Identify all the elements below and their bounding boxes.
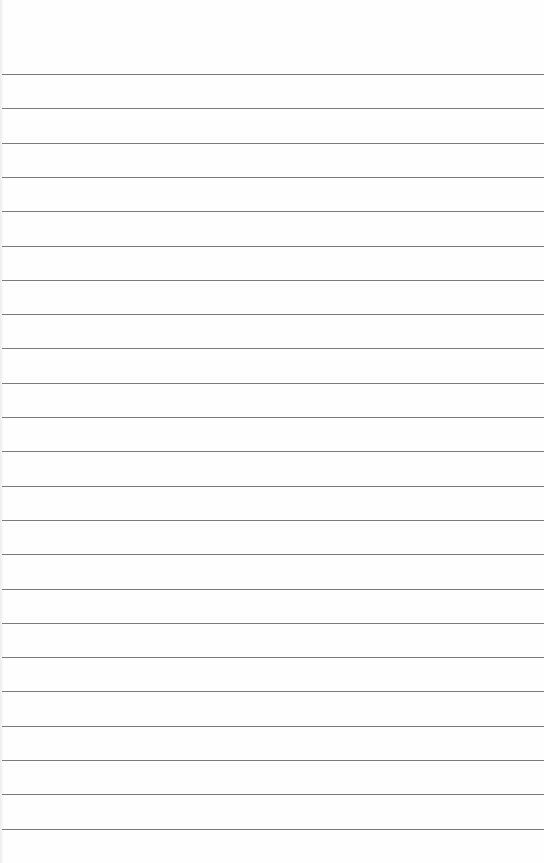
ruled-line xyxy=(2,143,544,144)
ruled-line xyxy=(2,417,544,418)
ruled-line xyxy=(2,657,544,658)
ruled-line xyxy=(2,520,544,521)
ruled-line xyxy=(2,108,544,109)
ruled-line xyxy=(2,246,544,247)
ruled-line xyxy=(2,314,544,315)
ruled-line xyxy=(2,589,544,590)
ruled-line xyxy=(2,383,544,384)
ruled-line xyxy=(2,211,544,212)
ruled-line xyxy=(2,74,544,75)
ruled-line xyxy=(2,794,544,795)
ruled-line xyxy=(2,726,544,727)
ruled-line xyxy=(2,691,544,692)
ruled-line xyxy=(2,486,544,487)
ruled-line xyxy=(2,554,544,555)
ruled-line xyxy=(2,177,544,178)
left-edge-shadow xyxy=(0,0,4,863)
ruled-line xyxy=(2,623,544,624)
ruled-line xyxy=(2,451,544,452)
ruled-line xyxy=(2,280,544,281)
ruled-line xyxy=(2,348,544,349)
ruled-line xyxy=(2,829,544,830)
ruled-line xyxy=(2,760,544,761)
lined-paper xyxy=(0,0,544,863)
